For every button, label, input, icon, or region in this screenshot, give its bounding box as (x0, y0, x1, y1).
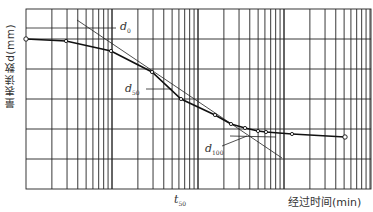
log-grid (26, 9, 371, 189)
asymptote-tangent (230, 136, 276, 137)
data-point (150, 70, 153, 73)
consolidation-curve (26, 39, 345, 137)
d50-annotation: d50 (125, 82, 140, 96)
data-point (213, 113, 216, 116)
d50-subscript: 50 (132, 89, 140, 96)
data-point (64, 39, 67, 42)
data-point (24, 37, 28, 41)
d100-annotation: d100 (205, 142, 224, 156)
data-markers (24, 37, 347, 139)
d50-text: d (125, 82, 132, 95)
d100-leader (222, 136, 247, 146)
t50-annotation: t50 (174, 193, 186, 207)
data-point (179, 97, 182, 100)
data-point (243, 126, 246, 129)
data-point (229, 122, 232, 125)
d0-subscript: 0 (127, 27, 131, 34)
chart-canvas (0, 0, 373, 212)
data-point (256, 129, 259, 132)
data-point (290, 132, 293, 135)
d0-annotation: d0 (120, 20, 131, 34)
d0-text: d (120, 20, 127, 33)
data-point (109, 49, 112, 52)
d100-text: d (205, 142, 212, 155)
x-axis-label: 经过时间(min) (288, 193, 361, 209)
data-point (343, 135, 347, 139)
d100-subscript: 100 (212, 149, 223, 156)
data-point (264, 130, 267, 133)
t50-subscript: 50 (178, 200, 186, 207)
y-axis-label: 量表读数d(mm) (2, 24, 16, 108)
